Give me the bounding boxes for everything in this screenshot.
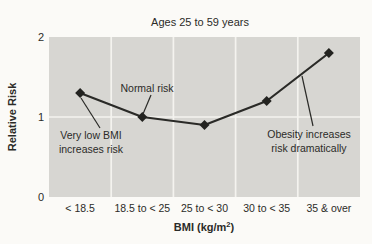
x-axis-tick-labels: < 18.518.5 to < 2525 to < 3030 to < 3535…	[65, 202, 352, 214]
x-tick-label: 35 & over	[306, 202, 351, 214]
y-axis-title: Relative Risk	[6, 82, 18, 151]
y-tick-label: 1	[38, 111, 44, 123]
x-tick-label: < 18.5	[65, 202, 95, 214]
obesity-note: risk dramatically	[271, 142, 347, 154]
y-tick-label: 2	[38, 31, 44, 43]
x-tick-label: 18.5 to < 25	[114, 202, 170, 214]
bmi-risk-chart: Ages 25 to 59 years Very low BMIincrease…	[0, 0, 372, 244]
x-tick-label: 25 to < 30	[181, 202, 228, 214]
very-low-bmi-note: Very low BMI	[60, 129, 121, 141]
y-tick-label: 0	[38, 191, 44, 203]
obesity-note: Obesity increases	[267, 128, 350, 140]
very-low-bmi-note: increases risk	[59, 143, 124, 155]
normal-risk-note: Normal risk	[120, 82, 174, 94]
x-axis-title: BMI (kg/m2)	[174, 220, 235, 233]
y-axis-tick-labels: 012	[38, 31, 44, 203]
chart-title: Ages 25 to 59 years	[151, 16, 249, 28]
x-axis-title-main: BMI (kg/m	[174, 221, 227, 233]
x-tick-label: 30 to < 35	[243, 202, 290, 214]
x-axis-title-close: )	[231, 221, 235, 233]
bmi-relative-risk-figure: Ages 25 to 59 years Very low BMIincrease…	[0, 0, 372, 244]
